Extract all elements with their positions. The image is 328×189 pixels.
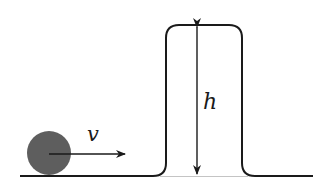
velocity-label: v — [87, 124, 99, 145]
ball — [27, 131, 71, 175]
diagram-canvas: v h — [0, 0, 328, 189]
diagram-svg — [0, 0, 328, 189]
height-label: h — [203, 91, 217, 113]
